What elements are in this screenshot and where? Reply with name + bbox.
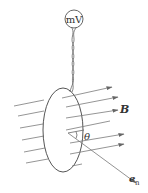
diagram-canvas: mV bbox=[0, 0, 148, 193]
field-label-B: B bbox=[119, 103, 129, 116]
field-lines-right bbox=[62, 87, 124, 166]
normal-label-subscript-n: n bbox=[135, 179, 140, 187]
angle-label-theta: θ bbox=[84, 131, 90, 142]
angle-marker bbox=[68, 130, 84, 139]
millivoltmeter: mV bbox=[65, 10, 83, 28]
conducting-loop bbox=[43, 88, 83, 172]
twisted-wires bbox=[70, 28, 76, 92]
meter-label: mV bbox=[66, 14, 83, 25]
